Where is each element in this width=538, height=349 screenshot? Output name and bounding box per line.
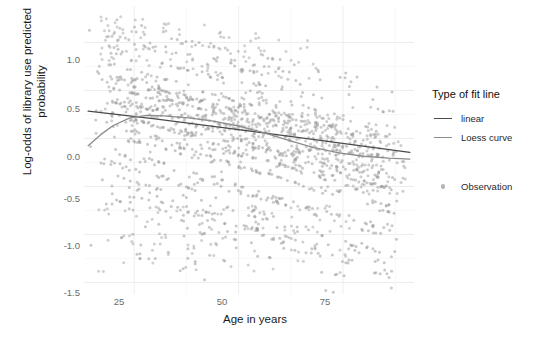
legend-title: Type of fit line	[432, 88, 536, 100]
scatter-plot-canvas	[84, 6, 414, 294]
legend-line-key-icon	[432, 112, 454, 126]
y-tick-label: 0.0	[40, 151, 80, 162]
legend-item-label: Observation	[461, 181, 512, 192]
legend-item-loess[interactable]: Loess curve	[432, 128, 536, 147]
legend: Type of fit line linear Loess curve Obse…	[432, 88, 536, 196]
legend-item-label: Loess curve	[461, 132, 512, 143]
y-tick-label: -0.5	[40, 193, 80, 204]
y-tick-label: 1.0	[40, 54, 80, 65]
y-tick-label: -1.5	[40, 287, 80, 298]
legend-item-linear[interactable]: linear	[432, 109, 536, 128]
x-tick-label: 25	[99, 296, 139, 307]
legend-point-key-icon	[432, 180, 454, 194]
plot-panel	[84, 6, 414, 294]
legend-spacer	[432, 147, 536, 177]
legend-line-key-icon	[432, 131, 454, 145]
observation-points	[88, 15, 407, 294]
x-tick-label: 50	[202, 296, 242, 307]
gridlines	[84, 6, 414, 294]
x-axis-title: Age in years	[85, 313, 425, 325]
legend-item-observation[interactable]: Observation	[432, 177, 536, 196]
x-tick-label: 75	[305, 296, 345, 307]
y-tick-label: -1.0	[40, 240, 80, 251]
y-tick-label: 0.5	[40, 103, 80, 114]
y-axis-tick-labels: 1.0 0.5 0.0 -0.5 -1.0 -1.5	[38, 0, 80, 349]
chart-figure: Log-odds of library use predicted probab…	[0, 0, 538, 349]
legend-item-label: linear	[461, 113, 484, 124]
